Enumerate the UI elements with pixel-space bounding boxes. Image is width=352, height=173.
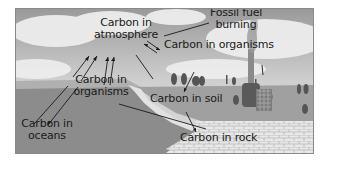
label-carbon-in-organisms-land: Carbon in organisms xyxy=(164,39,274,51)
atmosphere-line2: atmosphere xyxy=(86,29,166,41)
label-carbon-in-soil: Carbon in soil xyxy=(150,93,222,105)
label-carbon-in-oceans: Carbon in oceans xyxy=(17,118,77,142)
carbon-cycle-diagram: Carbon in atmosphere Fossil fuel burning… xyxy=(15,8,314,154)
label-carbon-in-atmosphere: Carbon in atmosphere xyxy=(86,17,166,41)
label-carbon-in-rock: Carbon in rock xyxy=(180,132,257,144)
label-carbon-in-organisms-water: Carbon in organisms xyxy=(70,74,132,98)
label-fossil-fuel-burning: Fossil fuel burning xyxy=(206,8,266,31)
organisms-water-line2: organisms xyxy=(70,86,132,98)
fossil-line2: burning xyxy=(206,19,266,31)
oceans-line2: oceans xyxy=(17,130,77,142)
